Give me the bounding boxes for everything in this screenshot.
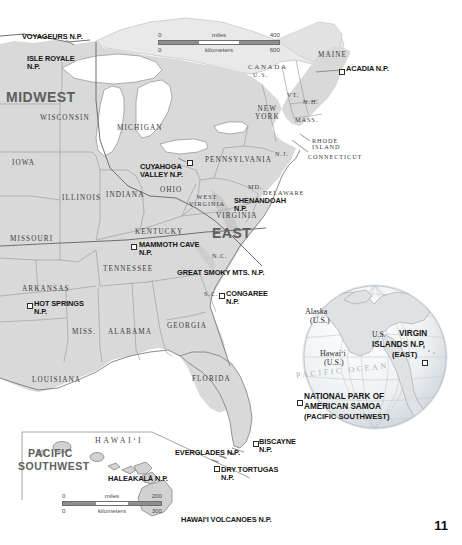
state-label-wisconsin: WISCONSIN (40, 115, 90, 123)
park-label-isle-royale: ISLE ROYALE N.P. (27, 55, 75, 71)
state-label-florida: FLORIDA (192, 376, 231, 384)
park-pin-american-samoa (297, 400, 303, 406)
main-map-scale-bar: 0 miles 400 0 kilometers 600 (158, 31, 280, 55)
state-label-mississippi: MISS. (72, 329, 96, 337)
hawaii-scale-km-label: kilometers (98, 507, 126, 514)
park-label-hawaii-volcanoes: HAWAIʻI VOLCANOES N.P. (181, 516, 271, 524)
scale-km-max: 600 (270, 46, 280, 53)
region-label-pacific-southwest-line1: PACIFIC (28, 448, 73, 459)
state-label-massachusetts: MASS. (295, 117, 318, 124)
state-label-new-jersey: N.J. (275, 151, 289, 158)
park-label-everglades: EVERGLADES N.P. (175, 449, 240, 457)
scale-km-min: 0 (158, 46, 161, 53)
globe-label-alaska-line2: (U.S.) (310, 317, 330, 326)
state-label-louisiana: LOUISIANA (32, 377, 81, 385)
park-pin-congaree (219, 293, 225, 299)
park-pin-cuyahoga-valley (187, 160, 193, 166)
state-label-kentucky: KENTUCKY (135, 229, 183, 237)
state-label-west-virginia: WEST VIRGINIA (189, 194, 225, 207)
country-label-us: U.S. (253, 72, 268, 78)
state-label-vermont: VT. (287, 92, 299, 99)
scale-miles-row: 0 miles 400 (158, 31, 280, 40)
park-label-mammoth-cave: MAMMOTH CAVE N.P. (139, 241, 199, 257)
state-label-alabama: ALABAMA (108, 329, 152, 337)
globe-label-virgin-islands-name: VIRGIN (399, 329, 427, 338)
state-label-rhode-island: RHODE ISLAND (312, 138, 341, 151)
scale-miles-max: 400 (270, 31, 280, 38)
globe-label-virgin-islands-us: U.S. (372, 331, 386, 340)
park-label-dry-tortugas: DRY TORTUGAS N.P. (221, 466, 278, 482)
country-label-canada: CANADA (248, 64, 288, 71)
park-label-great-smoky-mountains: GREAT SMOKY MTS. N.P. (177, 269, 264, 277)
state-label-virginia: VIRGINIA (216, 213, 258, 221)
hawaii-scale-km-row: 0 kilometers 300 (62, 506, 162, 516)
region-label-pacific-southwest-line2: SOUTHWEST (18, 461, 90, 472)
park-label-shenandoah: SHENANDOAH N.P. (234, 197, 286, 213)
state-label-north-carolina: N.C. (212, 253, 228, 260)
state-label-iowa: IOWA (12, 160, 35, 168)
region-label-east: EAST (212, 226, 251, 241)
hawaii-scale-km-min: 0 (62, 507, 65, 514)
state-label-new-hampshire: N.H. (303, 99, 319, 106)
hawaii-scale-miles-label: miles (105, 492, 119, 499)
state-label-illinois: ILLINOIS (62, 195, 101, 203)
scale-miles-min: 0 (158, 31, 161, 38)
globe-label-american-samoa-region: (PACIFIC SOUTHWEST) (304, 412, 390, 422)
globe-label-virgin-islands-np: ISLANDS N.P. (372, 340, 425, 349)
state-label-tennessee: TENNESSEE (103, 266, 153, 274)
state-label-indiana: INDIANA (106, 192, 144, 200)
park-pin-hot-springs (27, 303, 33, 309)
park-label-haleakala: HALEAKALĀ N.P. (108, 475, 168, 483)
region-label-midwest: MIDWEST (6, 90, 76, 105)
scale-km-label: kilometers (205, 46, 233, 53)
hawaii-scale-miles-min: 0 (62, 492, 65, 499)
globe-label-virgin-islands-region: (EAST) (392, 351, 417, 360)
globe-label-american-samoa-line2: AMERICAN SAMOA (304, 402, 381, 411)
park-label-acadia: ACADIA N.P. (346, 65, 389, 73)
state-label-georgia: GEORGIA (167, 323, 207, 331)
state-label-maryland: MD. (248, 184, 262, 191)
state-label-maine: MAINE (318, 52, 347, 60)
park-pin-biscayne (253, 441, 259, 447)
hawaii-scale-miles-max: 200 (152, 492, 162, 499)
park-label-cuyahoga-valley: CUYAHOGA VALLEY N.P. (140, 163, 183, 179)
park-pin-mammoth-cave (131, 244, 137, 250)
state-label-missouri: MISSOURI (10, 236, 53, 244)
park-label-biscayne: BISCAYNE N.P. (259, 438, 296, 454)
park-pin-dry-tortugas (214, 466, 220, 472)
page-number: 11 (434, 518, 448, 533)
state-label-michigan: MICHIGAN (117, 125, 163, 133)
state-label-arkansas: ARKANSAS (22, 286, 70, 294)
scale-km-row: 0 kilometers 600 (158, 45, 280, 55)
hawaii-scale-km-max: 300 (152, 507, 162, 514)
park-label-hot-springs: HOT SPRINGS N.P. (34, 300, 84, 316)
map-page: 0 miles 400 0 kilometers 600 0 miles 200… (0, 0, 462, 545)
park-label-voyageurs: VOYAGEURS N.P. (22, 33, 83, 41)
state-label-south-carolina: S.C. (204, 291, 218, 298)
park-pin-virgin-islands (422, 360, 428, 366)
state-label-ohio: OHIO (160, 187, 182, 195)
state-label-pennsylvania: PENNSYLVANIA (205, 157, 272, 165)
globe-label-american-samoa-line1: NATIONAL PARK OF (304, 392, 384, 401)
state-label-new-york: NEW YORK (255, 106, 280, 121)
state-label-connecticut: CONNECTICUT (308, 154, 362, 161)
hawaii-scale-miles-row: 0 miles 200 (62, 492, 162, 501)
hawaii-archipelago-label: HAWAIʻI (95, 437, 143, 445)
hawaii-inset-scale-bar: 0 miles 200 0 kilometers 300 (62, 492, 162, 516)
park-label-congaree: CONGAREE N.P. (226, 290, 268, 306)
scale-miles-label: miles (212, 31, 226, 38)
park-pin-acadia (339, 69, 345, 75)
